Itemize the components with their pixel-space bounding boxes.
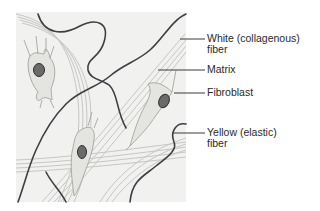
label-matrix: Matrix	[207, 64, 236, 75]
label-matrix-text: Matrix	[207, 64, 236, 75]
nucleus	[78, 146, 87, 159]
label-white-fiber: White (collagenous) fiber	[207, 33, 300, 55]
nucleus	[34, 64, 45, 77]
label-yellow-fiber: Yellow (elastic) fiber	[207, 127, 277, 149]
label-fibroblast: Fibroblast	[207, 87, 253, 98]
label-fibroblast-text: Fibroblast	[207, 87, 253, 98]
label-white-fiber-line2: fiber	[207, 44, 300, 55]
label-yellow-fiber-line2: fiber	[207, 138, 277, 149]
